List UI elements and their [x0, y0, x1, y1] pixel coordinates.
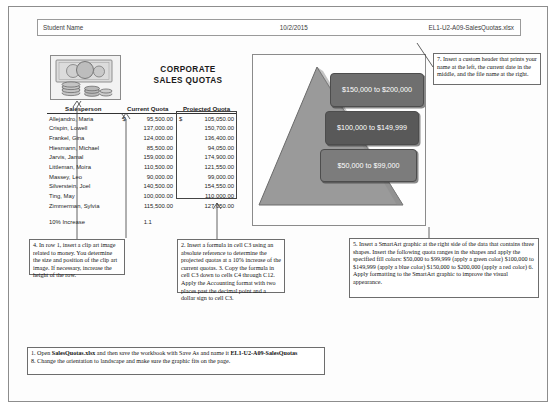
cell-current: 110,500.00 [119, 162, 176, 172]
custom-header-band: Student Name 10/2/2015 EL1-U2-A09-SalesQ… [37, 19, 521, 36]
cell-current: 159,000.00 [119, 153, 176, 163]
cell-salesperson: Silverstein, Joel [47, 182, 119, 192]
cell-projected: 127,050.00 [176, 201, 237, 211]
cell-current-value: 90,000.00 [147, 174, 173, 180]
cell-current-value: 137,000.00 [144, 125, 173, 131]
cell-projected-value: 94,050.00 [208, 145, 234, 151]
assignment-page: Student Name 10/2/2015 EL1-U2-A09-SalesQ… [8, 6, 548, 402]
pyramid-smartart[interactable]: $150,000 to $200,000 $100,000 to $149,99… [252, 54, 426, 226]
cell-projected-value: 136,400.00 [205, 135, 234, 141]
table-row: Crispin, Lowell 137,000.00 150,700.00 [47, 124, 237, 134]
cell-current: 137,000.00 [119, 124, 176, 134]
cell-salesperson: Frankel, Gina [47, 133, 119, 143]
cell-projected-value: 154,550.00 [205, 183, 234, 189]
table-footer-row: 10% Increase 1.1 [47, 211, 237, 227]
cell-projected: 136,400.00 [176, 133, 237, 143]
table-row: Frankel, Gina 124,000.00 136,400.00 [47, 133, 237, 143]
cell-current-value: 85,500.00 [147, 145, 173, 151]
cell-projected-value: 127,050.00 [205, 203, 234, 209]
title-line-1: CORPORATE [139, 64, 237, 75]
open-save-newname: EL1-U2-A09-SalesQuotas [230, 350, 297, 356]
table-row: Zimmerman, Sylvia 115,500.00 127,050.00 [47, 201, 237, 211]
header-file-name: EL1-U2-A09-SalesQuotas.xlsx [351, 24, 520, 31]
cell-current-value: 115,500.00 [144, 203, 173, 209]
cell-salesperson: Jarvis, Jamal [47, 153, 119, 163]
open-save-mid: and then save the workbook with Save As … [95, 350, 230, 356]
cell-current-value: 110,500.00 [144, 164, 173, 170]
cell-current-value: 100,000.00 [144, 193, 173, 199]
money-clip-art [50, 55, 121, 100]
column-header-salesperson: Salesperson [47, 105, 119, 114]
open-save-prefix: 1. Open [31, 350, 52, 356]
callout-clip-art: 4. In row 1, insert a clip art image rel… [29, 239, 125, 275]
cell-salesperson: Ting, May [47, 192, 119, 202]
currency-symbol: $ [178, 115, 182, 124]
worksheet-title: CORPORATE SALES QUOTAS [139, 64, 237, 86]
currency-symbol: $ [121, 115, 125, 124]
cell-current: 140,500.00 [119, 182, 176, 192]
cell-current: 115,500.00 [119, 201, 176, 211]
cell-salesperson: Littleman, Moira [47, 162, 119, 172]
cell-salesperson: Crispin, Lowell [47, 124, 119, 134]
quota-table: Salesperson Current Quota Projected Quot… [47, 105, 237, 227]
cell-projected-value: 110,000.00 [205, 193, 234, 199]
title-line-2: SALES QUOTAS [139, 75, 237, 86]
cell-current: 90,000.00 [119, 172, 176, 182]
cell-current: 85,500.00 [119, 143, 176, 153]
cell-projected: 110,000.00 [176, 192, 237, 202]
header-student-name: Student Name [38, 24, 236, 31]
smartart-shape-bottom[interactable]: $50,000 to $99,000 [320, 149, 417, 182]
callout-open-save: 1. Open SalesQuotas.xlsx and then save t… [27, 347, 325, 375]
cell-projected: 174,900.00 [176, 153, 237, 163]
cell-projected: 121,550.00 [176, 162, 237, 172]
cell-projected: 150,700.00 [176, 124, 237, 134]
increase-label: 10% Increase [47, 211, 119, 227]
table-body: Allejandro, Maria $95,500.00 $105,050.00… [47, 114, 237, 227]
cell-current: 100,000.00 [119, 192, 176, 202]
cell-salesperson: Massey, Leo [47, 172, 119, 182]
header-date: 10/2/2015 [236, 24, 352, 31]
cell-salesperson: Zimmerman, Sylvia [47, 201, 119, 211]
cell-projected: 94,050.00 [176, 143, 237, 153]
increase-value: 1.1 [119, 211, 176, 227]
table-header-row: Salesperson Current Quota Projected Quot… [47, 105, 237, 114]
cell-current-value: 124,000.00 [144, 135, 173, 141]
cell-current: 124,000.00 [119, 133, 176, 143]
cell-projected-value: 105,050.00 [205, 116, 234, 122]
table-row: Allejandro, Maria $95,500.00 $105,050.00 [47, 114, 237, 124]
smartart-shape-top[interactable]: $150,000 to $200,000 [330, 73, 424, 107]
sales-quota-table: Salesperson Current Quota Projected Quot… [47, 105, 237, 227]
callout-smartart: 5. Insert a SmartArt graphic at the righ… [349, 238, 539, 298]
table-row: Ting, May 100,000.00 110,000.00 [47, 192, 237, 202]
instruction-1: 1. Open SalesQuotas.xlsx and then save t… [31, 350, 321, 358]
cell-current-value: 95,500.00 [147, 116, 173, 122]
callout-formula: 2. Insert a formula in cell C3 using an … [177, 239, 285, 293]
column-header-projected-quota: Projected Quota [176, 105, 237, 114]
table-row: Hiesmann, Michael 85,500.00 94,050.00 [47, 143, 237, 153]
cell-projected-value: 150,700.00 [205, 125, 234, 131]
cell-salesperson: Allejandro, Maria [47, 114, 119, 124]
cell-current-value: 159,000.00 [144, 154, 173, 160]
cell-current: $95,500.00 [119, 114, 176, 124]
cell-projected-value: 174,900.00 [205, 154, 234, 160]
cell-projected: 99,000.00 [176, 172, 237, 182]
cell-projected: $105,050.00 [176, 114, 237, 124]
table-row: Massey, Leo 90,000.00 99,000.00 [47, 172, 237, 182]
table-row: Silverstein, Joel 140,500.00 154,550.00 [47, 182, 237, 192]
column-header-current-quota: Current Quota [119, 105, 176, 114]
cell-salesperson: Hiesmann, Michael [47, 143, 119, 153]
cell-projected: 154,550.00 [176, 182, 237, 192]
cell-current-value: 140,500.00 [144, 183, 173, 189]
table-row: Littleman, Moira 110,500.00 121,550.00 [47, 162, 237, 172]
instruction-8: 8. Change the orientation to landscape a… [31, 358, 321, 366]
cell-projected-value: 99,000.00 [208, 174, 234, 180]
table-row: Jarvis, Jamal 159,000.00 174,900.00 [47, 153, 237, 163]
callout-custom-header: 7. Insert a custom header that prints yo… [433, 53, 541, 85]
open-save-file: SalesQuotas.xlsx [52, 350, 96, 356]
cell-projected-value: 121,550.00 [205, 164, 234, 170]
smartart-shape-middle[interactable]: $100,000 to $149,999 [325, 111, 419, 145]
